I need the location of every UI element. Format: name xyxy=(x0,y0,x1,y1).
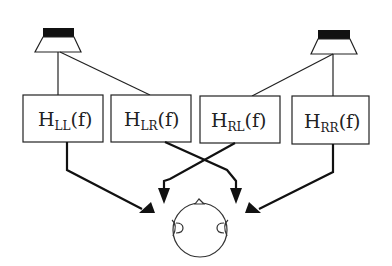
filter-to-ear-arrows xyxy=(67,142,333,209)
left-speaker-icon xyxy=(35,28,81,52)
transfer-function-hlr: HLR(f) xyxy=(111,95,191,142)
right-speaker-icon xyxy=(311,30,357,54)
speaker-to-filter-lines xyxy=(58,52,333,96)
arrowhead-left-inner xyxy=(158,188,170,204)
arrowhead-right-inner xyxy=(230,188,242,204)
transfer-function-hll: HLL(f) xyxy=(23,95,103,142)
arrow-hrr-to-right-ear xyxy=(259,144,333,209)
listener-head-icon xyxy=(172,199,228,257)
transfer-function-hrl: HRL(f) xyxy=(200,96,280,143)
binaural-crosstalk-diagram: HLL(f) HLR(f) HRL(f) HRR(f) xyxy=(0,0,392,266)
arrow-hrl-to-left-ear xyxy=(164,143,235,190)
transfer-function-hrr: HRR(f) xyxy=(292,96,369,144)
nose-icon xyxy=(195,199,204,204)
arrow-hll-to-left-ear xyxy=(67,142,142,209)
left-ear-icon xyxy=(176,223,183,233)
line-left-speaker-to-hlr xyxy=(60,52,150,95)
arrowhead-right-outer xyxy=(245,202,261,213)
line-right-speaker-to-hrl xyxy=(252,54,333,96)
right-ear-icon xyxy=(217,223,224,233)
